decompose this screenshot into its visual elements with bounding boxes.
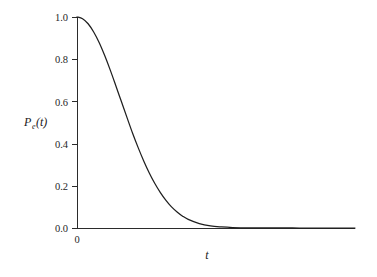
x-axis-title: t <box>205 248 209 262</box>
y-tick-label-5: 1.0 <box>55 12 68 23</box>
y-axis-title-argument: (t) <box>36 115 47 129</box>
y-tick-label-4: 0.8 <box>55 54 68 65</box>
figure-container: 0.0 0.2 0.4 0.6 0.8 1.0 0 P e (t) t <box>0 0 377 277</box>
chart-canvas: 0.0 0.2 0.4 0.6 0.8 1.0 0 P e (t) t <box>0 0 377 277</box>
y-tick-label-1: 0.2 <box>55 181 68 192</box>
y-axis-tick-labels: 0.0 0.2 0.4 0.6 0.8 1.0 <box>55 12 69 234</box>
y-tick-label-0: 0.0 <box>55 223 68 234</box>
y-axis-title-main: P <box>23 115 32 129</box>
y-tick-label-3: 0.6 <box>55 97 68 108</box>
data-curve-pe-t <box>77 17 355 228</box>
y-tick-label-2: 0.4 <box>55 139 69 150</box>
x-origin-tick-label: 0 <box>74 234 79 245</box>
y-axis-title: P e (t) <box>23 115 47 131</box>
y-axis-ticks <box>72 18 78 229</box>
